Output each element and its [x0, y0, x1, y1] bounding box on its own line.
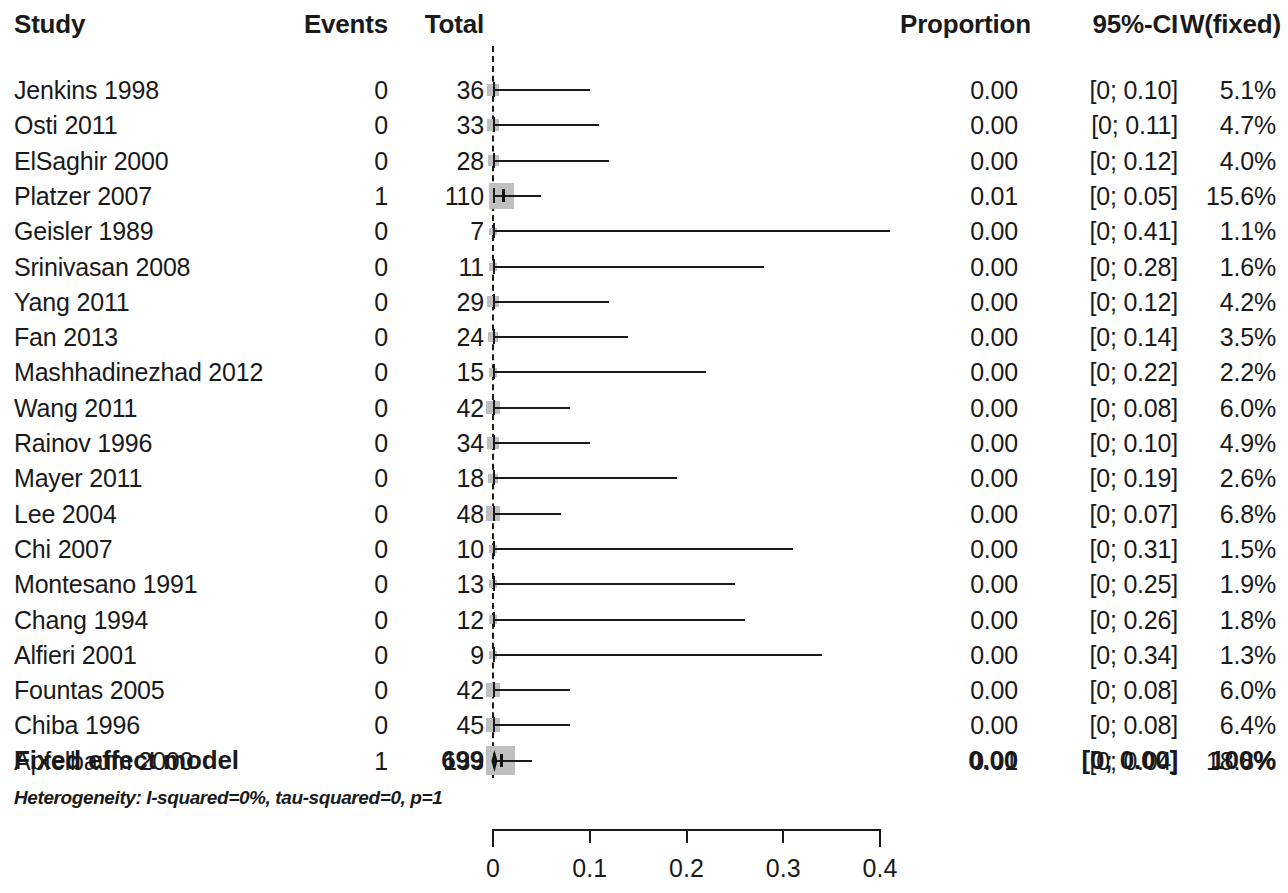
study-proportion: 0.00 — [900, 678, 1018, 703]
study-weight-box — [486, 746, 516, 776]
column-header-weight: W(fixed) — [1180, 12, 1276, 37]
ci-line — [493, 89, 590, 91]
study-total: 12 — [392, 608, 484, 633]
study-weight-box — [487, 119, 499, 131]
study-total: 42 — [392, 396, 484, 421]
study-weight: 1.8% — [1180, 608, 1276, 633]
study-proportion: 0.00 — [900, 290, 1018, 315]
study-weight-box — [487, 296, 498, 307]
column-header-total: Total — [392, 12, 484, 37]
study-weight-box — [486, 683, 500, 697]
null-effect-line — [492, 46, 494, 778]
forest-plot: Study Events Total Proportion 95%-CI W(f… — [0, 0, 1288, 893]
ci-line — [493, 442, 590, 444]
summary-ci: [0; 0.00] — [1028, 748, 1178, 773]
study-events: 0 — [268, 466, 388, 491]
study-total: 45 — [392, 713, 484, 738]
study-weight-box — [486, 718, 500, 732]
ci-line — [493, 760, 532, 762]
study-name: Mayer 2011 — [14, 466, 142, 491]
study-total: 10 — [392, 537, 484, 562]
study-weight: 4.2% — [1180, 290, 1276, 315]
x-axis-tick — [782, 829, 784, 843]
x-axis-tick — [686, 829, 688, 843]
study-events: 0 — [268, 572, 388, 597]
study-name: Mashhadinezhad 2012 — [14, 360, 263, 385]
ci-lower-cap — [493, 682, 495, 697]
study-proportion: 0.00 — [900, 537, 1018, 562]
study-name: Srinivasan 2008 — [14, 255, 190, 280]
study-weight-box — [489, 228, 496, 235]
study-ci: [0; 0.08] — [1028, 713, 1178, 738]
study-name: Alfieri 2001 — [14, 643, 137, 668]
ci-lower-cap — [493, 223, 495, 238]
ci-lower-cap — [493, 753, 495, 768]
study-events: 0 — [268, 396, 388, 421]
ci-line — [493, 654, 822, 656]
ci-line — [493, 124, 599, 126]
ci-lower-cap — [493, 647, 495, 662]
study-weight-box — [488, 474, 497, 483]
study-weight-box — [489, 545, 497, 553]
study-name: Wang 2011 — [14, 396, 137, 421]
study-ci: [0; 0.12] — [1028, 290, 1178, 315]
ci-lower-cap — [493, 612, 495, 627]
study-name: Lee 2004 — [14, 502, 117, 527]
x-axis-tick — [492, 829, 494, 847]
study-events: 0 — [268, 678, 388, 703]
ci-lower-cap — [493, 188, 495, 203]
study-name: Osti 2011 — [14, 113, 117, 138]
study-ci: [0; 0.10] — [1028, 78, 1178, 103]
study-name: Jenkins 1998 — [14, 78, 159, 103]
ci-line — [493, 619, 745, 621]
ci-line — [493, 407, 570, 409]
study-events: 0 — [268, 219, 388, 244]
study-ci: [0; 0.08] — [1028, 678, 1178, 703]
study-weight: 4.7% — [1180, 113, 1276, 138]
study-events: 0 — [268, 255, 388, 280]
study-total: 36 — [392, 78, 484, 103]
study-name: Chi 2007 — [14, 537, 112, 562]
study-total: 13 — [392, 572, 484, 597]
study-proportion: 0.00 — [900, 713, 1018, 738]
study-weight-box — [487, 84, 499, 96]
study-weight-box — [486, 506, 501, 521]
study-weight-box — [489, 580, 497, 588]
ci-line — [493, 160, 609, 162]
summary-total: 699 — [392, 748, 484, 773]
study-ci: [0; 0.41] — [1028, 219, 1178, 244]
study-ci: [0; 0.05] — [1028, 184, 1178, 209]
ci-line — [493, 513, 561, 515]
study-name: Platzer 2007 — [14, 184, 152, 209]
study-proportion: 0.00 — [900, 643, 1018, 668]
x-axis-tick-label: 0.1 — [540, 856, 640, 881]
ci-line — [493, 548, 793, 550]
study-weight: 15.6% — [1180, 184, 1276, 209]
ci-lower-cap — [493, 435, 495, 450]
study-weight: 4.9% — [1180, 431, 1276, 456]
study-total: 7 — [392, 219, 484, 244]
ci-line — [493, 266, 764, 268]
study-proportion: 0.00 — [900, 113, 1018, 138]
study-events: 0 — [268, 431, 388, 456]
study-name: Fountas 2005 — [14, 678, 165, 703]
study-events: 0 — [268, 149, 388, 174]
study-total: 48 — [392, 502, 484, 527]
study-events: 1 — [268, 184, 388, 209]
study-total: 29 — [392, 290, 484, 315]
study-events: 0 — [268, 713, 388, 738]
study-proportion: 0.00 — [900, 572, 1018, 597]
study-ci: [0; 0.11] — [1028, 113, 1178, 138]
ci-lower-cap — [493, 506, 495, 521]
study-events: 0 — [268, 360, 388, 385]
study-proportion: 0.00 — [900, 219, 1018, 244]
ci-lower-cap — [493, 541, 495, 556]
study-ci: [0; 0.10] — [1028, 431, 1178, 456]
x-axis-tick-label: 0 — [443, 856, 543, 881]
x-axis-tick-label: 0.4 — [830, 856, 930, 881]
ci-line — [493, 195, 541, 197]
study-ci: [0; 0.25] — [1028, 572, 1178, 597]
study-events: 0 — [268, 608, 388, 633]
x-axis-line — [493, 829, 880, 831]
study-weight: 4.0% — [1180, 149, 1276, 174]
